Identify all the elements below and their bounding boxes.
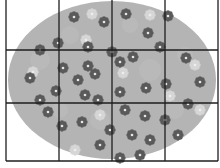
dark-flower bbox=[119, 104, 130, 115]
flower-center bbox=[29, 77, 32, 80]
dark-flower bbox=[180, 52, 191, 63]
texture-blob bbox=[61, 26, 79, 44]
light-flower bbox=[189, 59, 200, 70]
flower-center bbox=[97, 99, 100, 102]
flower-center bbox=[91, 13, 94, 16]
flower-center bbox=[84, 94, 87, 97]
flower-center bbox=[109, 129, 112, 132]
flower-center bbox=[149, 14, 152, 17]
texture-blob bbox=[122, 17, 138, 33]
light-flower bbox=[86, 8, 97, 19]
flower-center bbox=[119, 61, 122, 64]
flower-center bbox=[185, 57, 188, 60]
dark-flower bbox=[144, 134, 155, 145]
dark-flower bbox=[140, 82, 151, 93]
dark-flower bbox=[139, 110, 150, 121]
dark-flower bbox=[104, 124, 115, 135]
flower-center bbox=[169, 95, 172, 98]
flower-center bbox=[87, 65, 90, 68]
flower-center bbox=[139, 154, 142, 157]
flower-center bbox=[119, 157, 122, 160]
flower-center bbox=[32, 71, 35, 74]
dark-flower bbox=[79, 89, 90, 100]
flower-center bbox=[194, 64, 197, 67]
dark-flower bbox=[134, 149, 145, 160]
light-flower bbox=[69, 144, 80, 155]
flower-center bbox=[144, 115, 147, 118]
flower-center bbox=[147, 32, 150, 35]
dark-flower bbox=[114, 86, 125, 97]
dark-flower bbox=[56, 120, 67, 131]
flower-center bbox=[55, 90, 58, 93]
texture-blob bbox=[139, 59, 161, 81]
flower-center bbox=[47, 111, 50, 114]
dark-flower bbox=[162, 10, 173, 21]
flower-center bbox=[149, 139, 152, 142]
flower-center bbox=[73, 16, 76, 19]
flower-center bbox=[61, 125, 64, 128]
dark-flower bbox=[76, 116, 87, 127]
flower-center bbox=[87, 46, 90, 49]
dark-flower bbox=[160, 78, 171, 89]
dark-flower bbox=[89, 68, 100, 79]
flower-center bbox=[99, 144, 102, 147]
flower-center bbox=[74, 149, 77, 152]
flower-center bbox=[99, 114, 102, 117]
flower-center bbox=[122, 72, 125, 75]
light-flower bbox=[164, 90, 175, 101]
light-flower bbox=[144, 9, 155, 20]
texture-blob bbox=[52, 102, 68, 118]
flower-center bbox=[119, 91, 122, 94]
dark-flower bbox=[50, 85, 61, 96]
dark-flower bbox=[94, 139, 105, 150]
flower-grid-picture bbox=[0, 0, 220, 168]
flower-center bbox=[125, 13, 128, 16]
dark-flower bbox=[142, 27, 153, 38]
dark-flower bbox=[92, 94, 103, 105]
flower-center bbox=[124, 109, 127, 112]
flower-center bbox=[81, 121, 84, 124]
flower-center bbox=[39, 99, 42, 102]
flower-center bbox=[145, 87, 148, 90]
dark-flower bbox=[182, 98, 193, 109]
dark-flower bbox=[194, 76, 205, 87]
flower-center bbox=[132, 56, 135, 59]
flower-center bbox=[167, 15, 170, 18]
dark-flower bbox=[52, 37, 63, 48]
flower-center bbox=[85, 39, 88, 42]
dark-flower bbox=[42, 106, 53, 117]
light-flower bbox=[94, 109, 105, 120]
light-flower bbox=[117, 67, 128, 78]
dark-flower bbox=[114, 56, 125, 67]
dark-flower bbox=[34, 94, 45, 105]
flower-center bbox=[77, 79, 80, 82]
dark-flower bbox=[126, 129, 137, 140]
dark-flower bbox=[154, 41, 165, 52]
dark-flower bbox=[24, 72, 35, 83]
dark-flower bbox=[114, 152, 125, 163]
flower-center bbox=[199, 109, 202, 112]
light-flower bbox=[194, 104, 205, 115]
dark-flower bbox=[120, 8, 131, 19]
dark-flower bbox=[82, 41, 93, 52]
flower-center bbox=[94, 73, 97, 76]
flower-center bbox=[177, 134, 180, 137]
flower-center bbox=[199, 81, 202, 84]
dark-flower bbox=[98, 16, 109, 27]
dark-flower bbox=[72, 74, 83, 85]
flower-center bbox=[62, 67, 65, 70]
dark-flower bbox=[68, 11, 79, 22]
dark-flower bbox=[127, 51, 138, 62]
flower-center bbox=[103, 21, 106, 24]
dark-flower bbox=[172, 129, 183, 140]
flower-center bbox=[131, 134, 134, 137]
flower-center bbox=[159, 46, 162, 49]
